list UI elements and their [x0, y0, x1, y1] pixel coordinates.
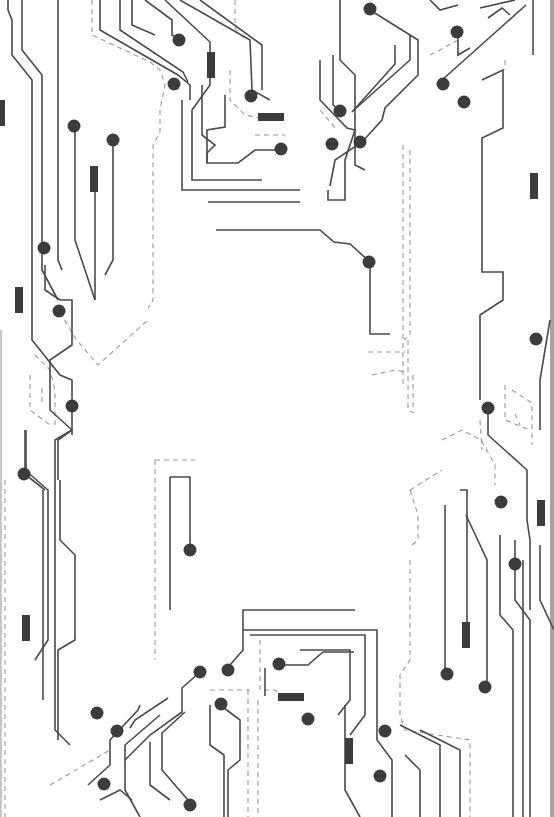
dashed-trace: [60, 312, 148, 365]
circuit-trace: [320, 60, 355, 200]
circuit-trace: [75, 126, 95, 300]
resistor-icon: [207, 52, 215, 78]
circuit-trace: [480, 70, 503, 400]
circuit-trace: [125, 715, 160, 817]
resistor-icon: [258, 113, 284, 121]
circuit-trace: [243, 630, 392, 817]
circuit-trace: [26, 430, 45, 490]
circuit-trace: [58, 0, 62, 270]
solder-node-icon: [451, 26, 464, 39]
dashed-trace: [442, 430, 495, 485]
left-edge-strip: [0, 330, 2, 817]
circuit-trace: [230, 610, 355, 665]
resistor-icon: [0, 100, 5, 126]
circuit-trace: [466, 515, 487, 685]
resistor-icon: [345, 738, 353, 764]
solder-node-icon: [107, 134, 120, 147]
circuit-trace: [278, 652, 354, 665]
solder-nodes: [18, 3, 543, 812]
circuit-trace: [216, 230, 390, 334]
solder-node-icon: [482, 402, 495, 415]
circuit-trace: [100, 790, 132, 800]
right-edge-strip: [550, 0, 554, 817]
circuit-trace: [430, 0, 458, 10]
dashed-trace: [515, 414, 520, 425]
solder-node-icon: [479, 681, 492, 694]
dashed-trace: [410, 490, 418, 545]
circuit-trace: [162, 712, 188, 800]
dashed-trace: [512, 390, 532, 445]
solder-node-icon: [222, 664, 235, 677]
circuit-trace: [180, 0, 270, 100]
solder-node-icon: [38, 242, 51, 255]
solder-node-icon: [458, 96, 471, 109]
solder-node-icon: [53, 305, 66, 318]
solder-node-icon: [184, 799, 197, 812]
circuit-trace: [165, 0, 262, 180]
solder-node-icon: [302, 713, 315, 726]
solder-node-icon: [275, 143, 288, 156]
solder-node-icon: [334, 105, 347, 118]
circuit-trace: [488, 8, 510, 18]
dashed-trace: [480, 420, 482, 450]
dashed-trace: [410, 470, 442, 490]
solder-node-icon: [379, 725, 392, 738]
resistors: [0, 52, 545, 764]
dashed-trace: [505, 385, 530, 430]
solder-node-icon: [437, 78, 450, 91]
circuit-trace: [8, 0, 32, 265]
circuit-trace: [58, 480, 75, 740]
solder-node-icon: [364, 3, 377, 16]
dashed-guides: [5, 0, 532, 817]
solder-node-icon: [245, 90, 258, 103]
circuit-trace: [210, 705, 224, 817]
resistor-icon: [278, 693, 304, 701]
circuit-trace: [145, 0, 180, 40]
solder-node-icon: [530, 333, 543, 346]
dashed-trace: [30, 375, 50, 425]
circuit-trace: [202, 85, 282, 163]
solder-node-icon: [509, 558, 522, 571]
resistor-icon: [22, 615, 30, 641]
solder-node-icon: [98, 778, 111, 791]
resistor-icon: [530, 173, 538, 199]
circuit-trace: [480, 0, 515, 8]
resistor-icon: [537, 500, 545, 526]
solder-node-icon: [326, 138, 339, 151]
solder-node-icon: [18, 468, 31, 481]
solder-node-icon: [441, 668, 454, 681]
solder-node-icon: [495, 496, 508, 509]
resistor-icon: [90, 166, 98, 192]
circuit-trace: [300, 650, 350, 715]
solder-node-icon: [168, 78, 181, 91]
solder-node-icon: [111, 725, 124, 738]
circuit-trace: [22, 0, 58, 300]
solder-node-icon: [273, 658, 286, 671]
dashed-trace: [404, 150, 410, 340]
solder-node-icon: [173, 34, 186, 47]
solder-node-icon: [91, 707, 104, 720]
solder-node-icon: [215, 698, 228, 711]
circuit-trace: [220, 705, 240, 817]
solder-node-icon: [354, 136, 367, 149]
solder-node-icon: [374, 770, 387, 783]
resistor-icon: [15, 287, 23, 313]
solder-node-icon: [363, 256, 376, 269]
dashed-trace: [372, 370, 405, 375]
solder-node-icon: [66, 400, 79, 413]
circuit-trace: [354, 10, 410, 110]
circuit-trace: [405, 755, 420, 817]
circuit-board-svg: [0, 0, 554, 817]
circuit-trace: [500, 535, 513, 817]
circuit-trace: [207, 95, 225, 163]
circuit-trace: [32, 265, 72, 480]
circuit-trace: [170, 477, 190, 545]
solder-node-icon: [194, 666, 207, 679]
circuit-trace: [460, 490, 467, 630]
circuit-trace: [105, 140, 113, 275]
circuit-trace: [150, 742, 170, 800]
resistor-icon: [462, 622, 470, 648]
solder-node-icon: [184, 544, 197, 557]
solder-node-icon: [68, 120, 81, 133]
